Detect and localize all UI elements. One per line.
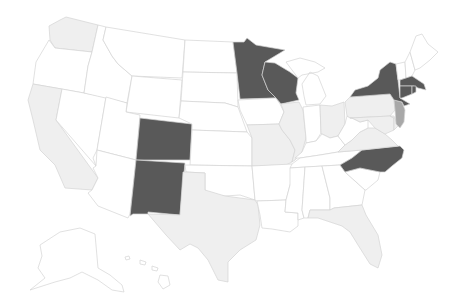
us-choropleth-map <box>0 0 461 305</box>
state-ia[interactable] <box>238 98 284 125</box>
state-nd[interactable] <box>183 40 237 73</box>
state-ri[interactable] <box>412 86 416 94</box>
state-az[interactable] <box>88 150 136 218</box>
state-vt[interactable] <box>396 62 406 80</box>
state-me[interactable] <box>410 34 438 70</box>
state-co[interactable] <box>136 118 192 160</box>
state-pa[interactable] <box>345 94 395 118</box>
state-in[interactable] <box>303 105 321 143</box>
state-ks[interactable] <box>190 130 252 166</box>
state-hi[interactable] <box>125 256 170 289</box>
state-wy[interactable] <box>126 76 182 118</box>
state-nm[interactable] <box>130 160 185 216</box>
us-map-svg <box>0 0 461 305</box>
state-fl[interactable] <box>308 205 382 268</box>
state-ct[interactable] <box>400 86 412 98</box>
state-wa[interactable] <box>49 17 98 52</box>
state-ak[interactable] <box>30 228 124 292</box>
